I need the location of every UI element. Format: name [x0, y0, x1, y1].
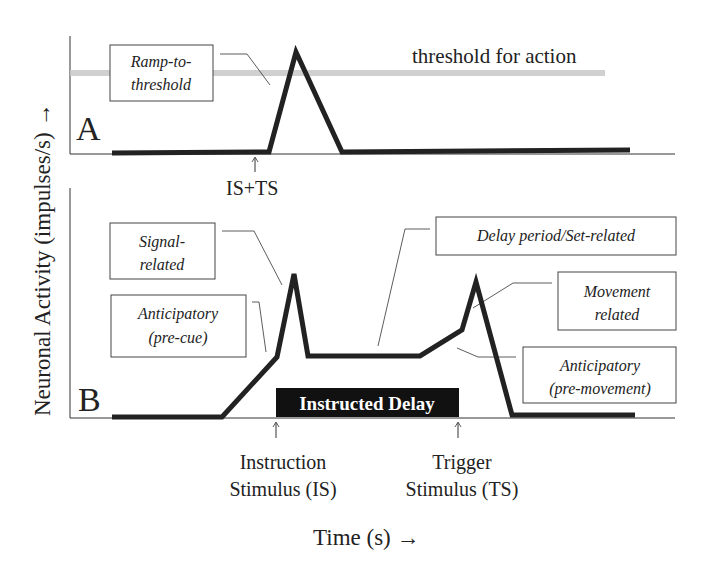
movement-leader-line — [473, 283, 552, 308]
ts-label-line2: Stimulus (TS) — [406, 478, 519, 501]
ramp-label-line2: threshold — [131, 76, 192, 93]
instructed-delay-label: Instructed Delay — [299, 393, 435, 414]
anticip-move-line2: (pre-movement) — [549, 380, 651, 398]
panel-b: B Signal- related Anticipatory (pre-cue)… — [70, 188, 676, 501]
delay-label: Delay period/Set-related — [476, 227, 636, 245]
anticip-move-leader-line — [457, 348, 516, 357]
anticip-cue-line1: Anticipatory — [137, 305, 219, 323]
signal-leader-line — [222, 231, 282, 285]
anticip-cue-leader-line — [252, 302, 266, 352]
panel-b-letter: B — [78, 381, 101, 418]
signal-label-line1: Signal- — [139, 233, 185, 251]
threshold-label: threshold for action — [412, 44, 577, 68]
anticip-move-line1: Anticipatory — [559, 357, 641, 375]
movement-line2: related — [595, 306, 641, 323]
ramp-label-line1: Ramp-to- — [130, 53, 191, 71]
panel-a-letter: A — [76, 110, 101, 147]
y-axis-label: Neuronal Activity (impulses/s) → — [30, 104, 55, 416]
is-label-line1: Instruction — [240, 451, 327, 473]
neuronal-activity-diagram: Neuronal Activity (impulses/s) → thresho… — [0, 0, 705, 577]
signal-label-line2: related — [140, 256, 186, 273]
anticip-cue-line2: (pre-cue) — [149, 329, 208, 347]
delay-leader-line — [378, 229, 430, 346]
ts-label-line1: Trigger — [432, 451, 492, 474]
is-label-line2: Stimulus (IS) — [229, 478, 336, 501]
x-axis-label: Time (s) → — [313, 525, 420, 550]
movement-line1: Movement — [583, 283, 651, 300]
panel-a: threshold for action A Ramp-to- threshol… — [70, 36, 675, 199]
is-ts-label: IS+TS — [226, 177, 278, 199]
ramp-leader-line — [220, 54, 270, 85]
